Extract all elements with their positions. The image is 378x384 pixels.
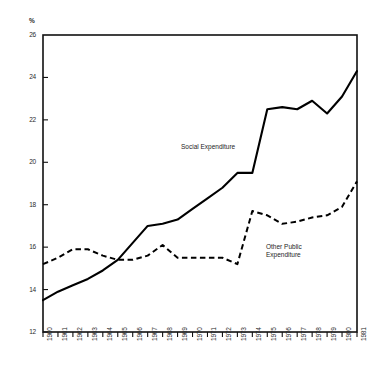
x-tick-label-1966: 1966 [136, 327, 143, 341]
plot-area-border [43, 35, 357, 332]
clipped-header-text [0, 0, 378, 10]
x-tick-label-1964: 1964 [106, 327, 113, 341]
annotation-line: Expenditure [266, 251, 318, 259]
x-tick-label-1972: 1972 [225, 327, 232, 341]
chart-figure: % 1214161820222426 196019611962196319641… [0, 0, 378, 384]
y-tick-label-14: 14 [20, 286, 36, 293]
x-tick-label-1962: 1962 [76, 327, 83, 341]
x-tick-label-1981: 1981 [360, 327, 367, 341]
series-label-other-public-expenditure: Other PublicExpenditure [266, 243, 318, 259]
series-layer [43, 71, 357, 300]
x-tick-label-1963: 1963 [91, 327, 98, 341]
y-tick-label-16: 16 [20, 243, 36, 250]
x-tick-label-1971: 1971 [210, 327, 217, 341]
x-tick-label-1969: 1969 [181, 327, 188, 341]
y-tick-label-24: 24 [20, 73, 36, 80]
series-line-social-expenditure [43, 71, 357, 300]
x-tick-label-1960: 1960 [46, 327, 53, 341]
y-tick-label-22: 22 [20, 116, 36, 123]
y-axis-unit-label: % [29, 17, 35, 24]
x-tick-label-1977: 1977 [300, 327, 307, 341]
x-tick-label-1961: 1961 [61, 327, 68, 341]
x-tick-label-1965: 1965 [121, 327, 128, 341]
y-tick-label-20: 20 [20, 158, 36, 165]
x-tick-label-1979: 1979 [330, 327, 337, 341]
x-tick-label-1976: 1976 [285, 327, 292, 341]
x-tick-label-1973: 1973 [240, 327, 247, 341]
y-tick-label-26: 26 [20, 31, 36, 38]
x-tick-label-1967: 1967 [151, 327, 158, 341]
x-tick-label-1968: 1968 [166, 327, 173, 341]
series-label-social-expenditure: Social Expenditure [181, 143, 235, 151]
x-tick-label-1975: 1975 [270, 327, 277, 341]
x-tick-label-1974: 1974 [255, 327, 262, 341]
y-tick-label-18: 18 [20, 201, 36, 208]
x-tick-label-1978: 1978 [315, 327, 322, 341]
y-tick-label-12: 12 [20, 328, 36, 335]
x-tick-label-1980: 1980 [345, 327, 352, 341]
annotation-line: Other Public [266, 243, 318, 251]
x-tick-label-1970: 1970 [196, 327, 203, 341]
axis-layer [43, 35, 357, 337]
